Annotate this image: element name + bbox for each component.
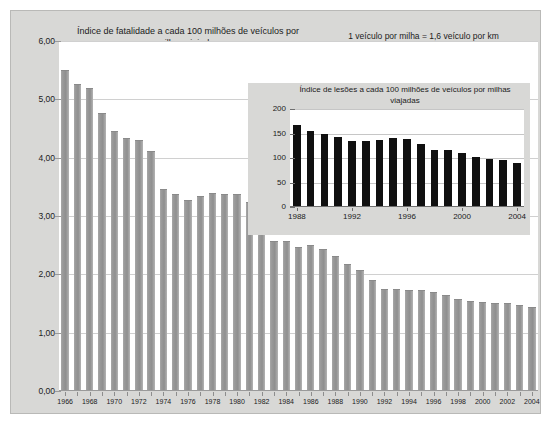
inset-x-axis-tick-mark — [517, 208, 518, 211]
inset-x-axis-tick-mark — [407, 208, 408, 211]
y-axis-tick-label: 3,00 — [15, 212, 55, 221]
inset-x-axis-tick-mark — [462, 208, 463, 211]
bar — [295, 247, 302, 391]
x-axis-tick-label: 1972 — [127, 398, 151, 405]
inset-bar — [362, 141, 370, 207]
inset-bar — [403, 139, 411, 207]
x-axis-tick-mark — [299, 392, 300, 396]
x-axis-tick-mark — [77, 392, 78, 396]
y-axis-tick-mark — [55, 216, 61, 217]
x-axis-tick-mark — [311, 392, 312, 396]
bar — [430, 292, 437, 391]
x-axis-tick-label: 1982 — [250, 398, 274, 405]
bar — [209, 193, 216, 391]
inset-y-axis-tick-mark — [290, 109, 295, 110]
x-axis-tick-label: 2000 — [471, 398, 495, 405]
bar — [332, 256, 339, 391]
x-axis-tick-label: 1986 — [299, 398, 323, 405]
x-axis-tick-mark — [495, 392, 496, 396]
x-axis-tick-mark — [286, 392, 287, 396]
x-axis-tick-mark — [274, 392, 275, 396]
main-y-axis: 0,001,002,003,004,005,006,00 — [11, 41, 55, 391]
x-axis-tick-mark — [188, 392, 189, 396]
y-axis-tick-label: 0,00 — [15, 387, 55, 396]
bar — [479, 302, 486, 391]
inset-bar — [389, 138, 397, 207]
bar — [528, 307, 535, 391]
main-axis-baseline — [59, 390, 538, 391]
x-axis-tick-label: 1988 — [323, 398, 347, 405]
bar — [172, 194, 179, 391]
x-axis-tick-mark — [434, 392, 435, 396]
y-axis-tick-mark — [55, 99, 61, 100]
x-axis-tick-mark — [384, 392, 385, 396]
inset-x-axis: 19881992199620002004 — [290, 208, 524, 230]
bar — [258, 230, 265, 391]
bar — [369, 280, 376, 391]
bar — [418, 290, 425, 391]
inset-plot-area — [290, 109, 524, 207]
inset-y-axis-tick-label: 100 — [260, 154, 286, 162]
inset-bar — [458, 153, 466, 207]
bar — [98, 113, 105, 391]
bar — [197, 196, 204, 391]
x-axis-tick-mark — [421, 392, 422, 396]
bar — [111, 131, 118, 391]
x-axis-tick-label: 1984 — [274, 398, 298, 405]
bar — [160, 189, 167, 391]
inset-bar — [293, 125, 301, 207]
x-axis-tick-mark — [520, 392, 521, 396]
x-axis-tick-mark — [114, 392, 115, 396]
inset-x-axis-tick-label: 2004 — [503, 213, 531, 221]
x-axis-tick-mark — [483, 392, 484, 396]
bar — [233, 194, 240, 391]
x-axis-tick-label: 1974 — [151, 398, 175, 405]
x-axis-tick-label: 1980 — [225, 398, 249, 405]
x-axis-tick-mark — [409, 392, 410, 396]
bar — [454, 299, 461, 391]
y-axis-tick-mark — [55, 158, 61, 159]
inset-bar — [417, 144, 425, 207]
inset-y-axis-tick-label: 0 — [260, 203, 286, 211]
y-axis-tick-mark — [55, 274, 61, 275]
y-axis-tick-label: 4,00 — [15, 154, 55, 163]
bar — [405, 290, 412, 391]
x-axis-tick-label: 1990 — [348, 398, 372, 405]
x-axis-tick-label: 1996 — [422, 398, 446, 405]
bar — [504, 303, 511, 391]
bar — [381, 289, 388, 391]
bar — [61, 70, 68, 391]
inset-x-axis-tick-label: 1996 — [393, 213, 421, 221]
inset-bar — [513, 163, 521, 207]
y-axis-tick-mark — [55, 333, 61, 334]
x-axis-tick-mark — [176, 392, 177, 396]
x-axis-tick-mark — [90, 392, 91, 396]
bar — [184, 200, 191, 391]
bar — [123, 138, 130, 391]
x-axis-tick-mark — [360, 392, 361, 396]
x-axis-tick-mark — [139, 392, 140, 396]
x-axis-tick-mark — [458, 392, 459, 396]
bar — [221, 194, 228, 391]
x-axis-tick-mark — [163, 392, 164, 396]
x-axis-tick-mark — [151, 392, 152, 396]
x-axis-tick-mark — [127, 392, 128, 396]
x-axis-tick-mark — [532, 392, 533, 396]
bar — [74, 84, 81, 391]
x-axis-tick-mark — [225, 392, 226, 396]
inset-bar — [376, 140, 384, 207]
inset-x-axis-tick-mark — [352, 208, 353, 211]
bar — [467, 301, 474, 391]
bar — [516, 305, 523, 391]
x-axis-tick-mark — [262, 392, 263, 396]
x-axis-tick-label: 1976 — [176, 398, 200, 405]
bar — [135, 140, 142, 391]
inset-bar — [444, 150, 452, 207]
inset-bar — [499, 160, 507, 207]
x-axis-tick-mark — [65, 392, 66, 396]
conversion-note: 1 veículo por milha = 1,6 veículo por km — [311, 31, 536, 41]
inset-bar — [334, 137, 342, 207]
inset-chart: Índice de lesões a cada 100 milhões de v… — [248, 83, 530, 235]
bar — [344, 264, 351, 391]
x-axis-tick-label: 1994 — [397, 398, 421, 405]
